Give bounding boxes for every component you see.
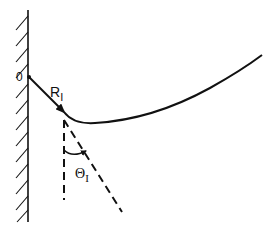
origin-label: 0	[16, 70, 23, 84]
diagram-canvas: 0 RI ΘI	[0, 0, 279, 236]
wall-hatching	[16, 16, 28, 222]
wall	[16, 10, 28, 222]
trajectory-curve	[64, 55, 262, 123]
angle-arc	[64, 150, 86, 154]
tangent-dashed-line	[64, 120, 122, 212]
angle-label: ΘI	[75, 166, 89, 184]
